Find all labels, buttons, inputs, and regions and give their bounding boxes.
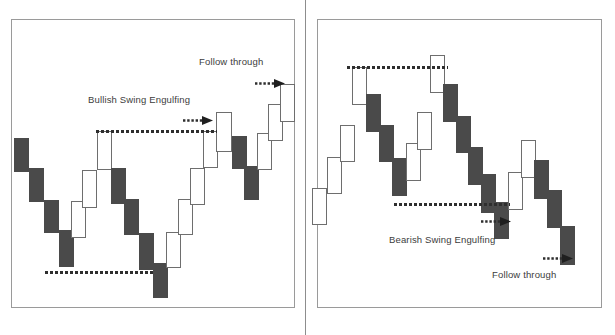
candle-left-1-down	[14, 138, 29, 172]
follow-through-arrow-left	[255, 78, 285, 89]
label-left-bullish-swing-engulfing: Bullish Swing Engulfing	[88, 94, 190, 105]
candle-left-21-up	[280, 84, 295, 122]
candle-right-2-up	[327, 157, 342, 194]
candle-right-9-up	[417, 112, 432, 150]
candle-left-12-up	[166, 232, 181, 268]
swing-high-level-right	[347, 66, 448, 69]
swing-low-level-left	[45, 271, 155, 274]
candle-left-6-up	[82, 170, 97, 208]
candle-left-16-up	[216, 112, 232, 152]
panel-divider-line	[305, 0, 306, 335]
follow-through-arrow-right	[543, 253, 573, 264]
label-right-bearish-swing-engulfing: Bearish Swing Engulfing	[389, 234, 495, 245]
swing-low-level-right	[394, 203, 510, 206]
candle-left-10-down	[139, 233, 154, 270]
candle-left-11-down	[153, 263, 168, 298]
label-left-follow-through: Follow through	[199, 56, 263, 67]
candle-right-6-down	[379, 125, 394, 162]
candle-right-19-down	[547, 190, 562, 228]
swing-high-level-left	[96, 130, 217, 133]
candle-right-7-down	[392, 158, 407, 196]
candle-left-9-down	[124, 199, 139, 235]
figure-root: Bullish Swing EngulfingFollow throughBea…	[0, 0, 615, 335]
candle-left-3-down	[44, 200, 59, 233]
candle-right-4-up	[352, 67, 367, 105]
label-right-follow-through: Follow through	[492, 269, 556, 280]
candle-left-17-down	[232, 136, 247, 169]
engulfing-arrow-right	[481, 216, 511, 227]
candle-right-1-up	[312, 188, 327, 225]
candle-right-3-up	[340, 125, 355, 162]
candle-left-2-down	[29, 168, 44, 202]
candle-left-7-up	[97, 131, 112, 170]
engulfing-arrow-left	[183, 115, 213, 126]
candle-left-18-down	[244, 166, 259, 200]
candle-left-14-up	[190, 168, 205, 205]
